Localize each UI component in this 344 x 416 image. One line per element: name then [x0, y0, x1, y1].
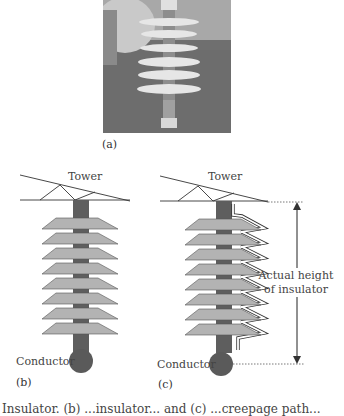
panel-c-label: (c) — [158, 378, 173, 391]
panel-b-label: (b) — [16, 376, 32, 389]
panel-b-conductor-label: Conductor — [16, 355, 75, 368]
annotation-line-1: Actual height — [258, 269, 334, 282]
panel-c-conductor-label: Conductor — [157, 358, 216, 371]
annotation-line-2: of insulator — [264, 283, 329, 296]
panel-c-insulator — [185, 201, 264, 376]
figure-caption-partial: Insulator. (b) ...insulator... and (c) .… — [2, 402, 321, 416]
panel-b-insulator — [42, 200, 118, 373]
panel-b-tower-label: Tower — [68, 170, 103, 183]
panel-c-tower-label: Tower — [208, 170, 243, 183]
